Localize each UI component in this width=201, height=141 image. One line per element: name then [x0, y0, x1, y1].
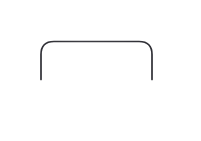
figure-root	[0, 0, 201, 141]
pulse-graph-svg	[0, 0, 201, 141]
figure-background	[0, 0, 201, 141]
